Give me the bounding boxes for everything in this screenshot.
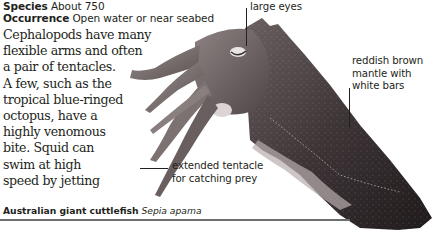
body-line: flexible arms and often [3, 43, 163, 59]
leader-line-tentacle [140, 168, 168, 169]
leader-line-eyes [246, 8, 247, 46]
caption-scientific-name: Sepia apama [141, 205, 201, 216]
body-line: highly venomous [3, 124, 163, 140]
annotation-mantle-text: mantle with [352, 68, 423, 81]
occurrence-info: Occurrence Open water or near seabed [3, 12, 214, 25]
body-line: Cephalopods have many [3, 27, 163, 43]
annotation-mantle: reddish brown mantle with white bars [352, 55, 423, 93]
body-line: A few, such as the [3, 76, 163, 92]
body-line: bite. Squid can [3, 140, 163, 156]
occurrence-value: Open water or near seabed [72, 12, 214, 24]
annotation-mantle-text: white bars [352, 80, 423, 93]
body-paragraph: Cephalopods have many flexible arms and … [3, 27, 163, 189]
annotation-tentacle-text: extended tentacle [172, 160, 263, 173]
bottom-divider [0, 219, 350, 221]
caption-common-name: Australian giant cuttlefish [3, 205, 139, 216]
species-label: Species [3, 0, 48, 12]
annotation-tentacle-text: for catching prey [172, 173, 263, 186]
image-caption: Australian giant cuttlefish Sepia apama [3, 205, 202, 216]
annotation-eyes: large eyes [250, 1, 302, 14]
annotation-mantle-text: reddish brown [352, 55, 423, 68]
species-value: About 750 [51, 0, 105, 12]
body-line: a pair of tentacles. [3, 59, 163, 75]
annotation-tentacle: extended tentacle for catching prey [172, 160, 263, 185]
body-line: tropical blue-ringed [3, 92, 163, 108]
annotation-eyes-text: large eyes [250, 1, 302, 14]
occurrence-label: Occurrence [3, 12, 69, 24]
leader-line-mantle [349, 88, 350, 128]
body-line: octopus, have a [3, 108, 163, 124]
body-line: swim at high [3, 157, 163, 173]
body-line: speed by jetting [3, 173, 163, 189]
